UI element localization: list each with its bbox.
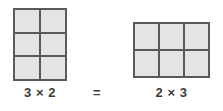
- grid-cell: [15, 57, 39, 79]
- grid-cell: [135, 24, 158, 49]
- grid-cell: [41, 34, 65, 56]
- commutative-multiplication-figure: 3 × 2 = 2 × 3: [0, 0, 223, 111]
- right-expression-label: 2 × 3: [130, 85, 213, 100]
- grid-cell: [15, 10, 39, 32]
- grid-cell: [185, 24, 208, 49]
- grid-cell: [160, 51, 183, 76]
- equals-sign-label: =: [77, 85, 117, 100]
- grid-cell: [15, 34, 39, 56]
- grid-cell: [160, 24, 183, 49]
- grid-cell: [135, 51, 158, 76]
- grid-cell: [41, 57, 65, 79]
- grid-cell: [41, 10, 65, 32]
- array-grid-2-rows-by-3-columns: [133, 22, 210, 78]
- left-expression-label: 3 × 2: [0, 85, 80, 100]
- grid-cell: [185, 51, 208, 76]
- array-grid-3-rows-by-2-columns: [13, 8, 67, 81]
